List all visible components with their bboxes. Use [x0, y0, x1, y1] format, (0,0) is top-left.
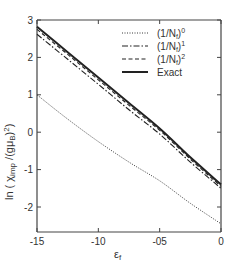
y-tick-label: 3: [27, 15, 33, 26]
data-series: [37, 27, 221, 224]
x-axis-title: εf: [114, 248, 122, 262]
legend-label: Exact: [157, 67, 182, 78]
legend-label: (1/Nf)0: [157, 27, 185, 40]
x-tick-label: -10: [91, 236, 106, 247]
y-axis-title: ln ( χimp /(gμB)2): [2, 124, 17, 200]
legend-label: (1/Nf)1: [157, 40, 185, 53]
y-tick-label: 0: [27, 127, 33, 138]
y-tick-label: 2: [27, 52, 33, 63]
y-tick-label: -2: [24, 202, 33, 213]
legend-label: (1/Nf)2: [157, 53, 185, 66]
y-axis-ticks: 3210-1-2: [24, 15, 221, 213]
chart: 3210-1-2 -15-10-050 (1/Nf)0(1/Nf)1(1/Nf)…: [0, 0, 236, 264]
x-tick-label: 0: [218, 236, 224, 247]
legend: (1/Nf)0(1/Nf)1(1/Nf)2Exact: [122, 27, 185, 78]
y-tick-label: -1: [24, 164, 33, 175]
x-axis-ticks: -15-10-050: [30, 20, 224, 247]
series-line: [37, 34, 221, 188]
x-tick-label: -05: [152, 236, 167, 247]
x-tick-label: -15: [30, 236, 45, 247]
y-tick-label: 1: [27, 89, 33, 100]
series-line: [37, 29, 221, 186]
